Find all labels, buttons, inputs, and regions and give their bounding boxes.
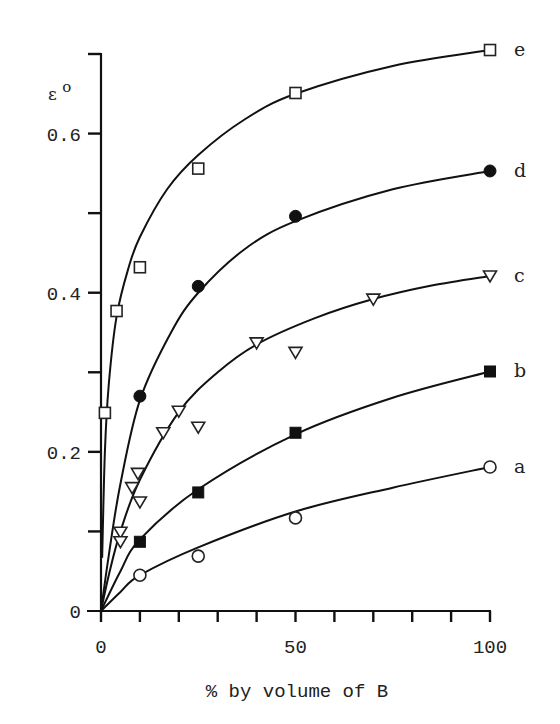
data-point-d bbox=[134, 390, 146, 402]
series-label-d: d bbox=[514, 159, 526, 181]
data-point-d bbox=[290, 210, 302, 222]
x-tick-label: 100 bbox=[473, 637, 507, 659]
data-point-e bbox=[99, 407, 110, 418]
data-point-b bbox=[134, 536, 145, 547]
series-labels: abcde bbox=[514, 38, 526, 477]
data-point-c bbox=[157, 428, 170, 439]
chart: 05010000.20.40.6 ε o % by volume of B ab… bbox=[0, 0, 560, 724]
data-markers bbox=[99, 45, 496, 582]
y-axis-label: ε o bbox=[48, 78, 71, 104]
data-point-e bbox=[134, 262, 145, 273]
data-point-b bbox=[290, 427, 301, 438]
ticks bbox=[88, 54, 490, 622]
data-point-e bbox=[193, 163, 204, 174]
data-point-a bbox=[192, 550, 204, 562]
data-point-e bbox=[485, 45, 496, 56]
data-point-e bbox=[290, 87, 301, 98]
y-tick-label: 0 bbox=[70, 602, 81, 624]
series-label-c: c bbox=[514, 264, 525, 286]
y-tick-label: 0.4 bbox=[47, 284, 81, 306]
y-tick-label: 0.2 bbox=[47, 443, 81, 465]
series-label-e: e bbox=[514, 38, 525, 60]
data-point-d bbox=[484, 165, 496, 177]
fit-curve-c bbox=[101, 276, 490, 611]
data-point-c bbox=[133, 497, 146, 508]
fit-curve-e bbox=[102, 50, 490, 558]
series-label-b: b bbox=[514, 359, 526, 381]
data-point-b bbox=[485, 366, 496, 377]
data-point-a bbox=[484, 461, 496, 473]
x-axis-label: % by volume of B bbox=[206, 681, 388, 703]
x-tick-label: 0 bbox=[95, 637, 106, 659]
fit-curve-b bbox=[101, 371, 490, 611]
data-point-e bbox=[111, 306, 122, 317]
x-tick-label: 50 bbox=[284, 637, 307, 659]
axes bbox=[87, 53, 491, 611]
fit-curve-d bbox=[101, 171, 490, 611]
data-point-d bbox=[192, 280, 204, 292]
y-axis-label-main: ε bbox=[48, 84, 57, 104]
data-point-a bbox=[290, 512, 302, 524]
data-point-c bbox=[192, 422, 205, 433]
data-point-c bbox=[289, 347, 302, 358]
series-label-a: a bbox=[514, 455, 525, 477]
y-tick-label: 0.6 bbox=[47, 125, 81, 147]
fit-curves bbox=[101, 50, 490, 611]
fit-curve-a bbox=[101, 467, 490, 611]
data-point-c bbox=[172, 406, 185, 417]
data-point-a bbox=[134, 569, 146, 581]
y-axis-label-superscript: o bbox=[62, 78, 71, 96]
data-point-b bbox=[193, 487, 204, 498]
